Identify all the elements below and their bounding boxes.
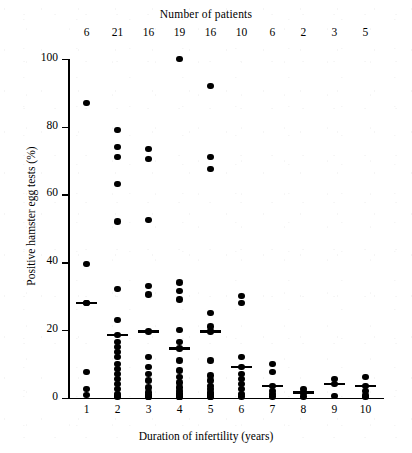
y-tick-mark [62, 127, 68, 128]
data-point [362, 394, 368, 400]
patient-count-value: 16 [198, 26, 224, 38]
x-tick-label: 6 [228, 403, 254, 415]
patient-count-value: 10 [228, 26, 254, 38]
data-point [269, 369, 275, 375]
data-point [114, 127, 120, 133]
y-tick-mark [62, 330, 68, 331]
paper-grain-overlay [0, 0, 412, 453]
y-tick-mark [62, 59, 68, 60]
data-point [269, 361, 275, 367]
y-axis-line [68, 59, 70, 399]
x-axis-label: Duration of infertility (years) [0, 430, 412, 442]
data-point [145, 217, 151, 223]
data-point [83, 100, 89, 106]
x-tick-label: 3 [136, 403, 162, 415]
data-point [145, 146, 151, 152]
median-bar [107, 334, 128, 336]
patient-count-value: 5 [352, 26, 378, 38]
data-point [238, 354, 244, 360]
data-point [207, 357, 213, 363]
median-bar [293, 391, 314, 393]
median-bar [200, 330, 221, 332]
data-point [114, 154, 120, 160]
y-tick-label: 0 [24, 390, 58, 402]
data-point [145, 364, 151, 370]
patient-count-value: 19 [167, 26, 193, 38]
data-point [176, 394, 182, 400]
patient-count-row: 621161916106235 [0, 26, 412, 42]
data-point [362, 374, 368, 380]
data-point [83, 261, 89, 267]
y-tick-label: 100 [24, 51, 58, 63]
y-tick-label: 20 [24, 322, 58, 334]
patient-count-value: 6 [259, 26, 285, 38]
data-point [176, 56, 182, 62]
data-point [238, 300, 244, 306]
data-point [207, 394, 213, 400]
median-bar [231, 366, 252, 368]
x-tick-label: 8 [290, 403, 316, 415]
x-tick-label: 10 [352, 403, 378, 415]
data-point [269, 393, 275, 399]
data-point [145, 291, 151, 297]
y-tick-mark [62, 398, 68, 399]
data-point [145, 354, 151, 360]
median-bar [355, 385, 376, 387]
x-tick-label: 4 [167, 403, 193, 415]
data-point [114, 317, 120, 323]
data-point [145, 394, 151, 400]
data-point [207, 154, 213, 160]
data-point [207, 83, 213, 89]
data-point [176, 367, 182, 373]
data-point [83, 369, 89, 375]
data-point [145, 377, 151, 383]
data-point [83, 392, 89, 398]
data-point [114, 181, 120, 187]
y-tick-mark [62, 262, 68, 263]
patient-count-value: 2 [290, 26, 316, 38]
patient-count-value: 3 [321, 26, 347, 38]
median-bar [262, 385, 283, 387]
median-bar [138, 330, 159, 332]
y-tick-label: 40 [24, 254, 58, 266]
data-point [114, 394, 120, 400]
x-tick-label: 9 [321, 403, 347, 415]
data-point [176, 357, 182, 363]
data-point [331, 393, 337, 399]
data-point [145, 283, 151, 289]
data-point [176, 327, 182, 333]
data-point [238, 393, 244, 399]
data-point [114, 286, 120, 292]
y-tick-label: 60 [24, 186, 58, 198]
median-bar [169, 347, 190, 349]
data-point [114, 218, 120, 224]
y-tick-label: 80 [24, 119, 58, 131]
data-point [176, 279, 182, 285]
y-tick-mark [62, 194, 68, 195]
patient-count-value: 16 [136, 26, 162, 38]
data-point [207, 310, 213, 316]
data-point [207, 166, 213, 172]
top-axis-title: Number of patients [0, 8, 412, 20]
x-tick-label: 7 [259, 403, 285, 415]
x-tick-label: 1 [74, 403, 100, 415]
patient-count-value: 6 [74, 26, 100, 38]
data-point [145, 156, 151, 162]
patient-count-value: 21 [105, 26, 131, 38]
data-point [176, 296, 182, 302]
median-bar [324, 383, 345, 385]
x-tick-label: 5 [198, 403, 224, 415]
data-point [114, 354, 120, 360]
data-point [176, 288, 182, 294]
median-bar [76, 302, 97, 304]
x-tick-label: 2 [105, 403, 131, 415]
data-point [238, 293, 244, 299]
data-point [176, 339, 182, 345]
scatter-plot-figure: Number of patients 621161916106235 Posit… [0, 0, 412, 453]
data-point [300, 393, 306, 399]
data-point [114, 144, 120, 150]
data-point [145, 371, 151, 377]
